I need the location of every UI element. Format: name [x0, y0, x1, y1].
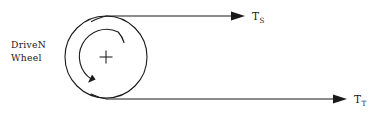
tension-subscript-bottom: T — [362, 99, 367, 108]
wheel-label-line1: DriveN — [11, 39, 46, 50]
tension-label-slack-side: T S — [252, 10, 265, 25]
belt-arrow-head-bottom-icon — [333, 95, 347, 104]
diagram-canvas: DriveN Wheel T S T T — [0, 0, 387, 123]
wheel-label-line2: Wheel — [11, 52, 42, 63]
belt-arrow-head-top-icon — [231, 12, 245, 21]
rotation-arrow-head-icon — [88, 75, 96, 83]
tension-symbol-top: T — [252, 10, 259, 22]
driven-wheel-diagram: DriveN Wheel T S T T — [0, 0, 387, 123]
rotation-direction-arc — [79, 29, 124, 79]
wheel-center-cross-icon — [100, 51, 113, 64]
tension-symbol-bottom: T — [354, 93, 361, 105]
tension-label-tight-side: T T — [354, 93, 367, 108]
tension-subscript-top: S — [260, 16, 265, 25]
